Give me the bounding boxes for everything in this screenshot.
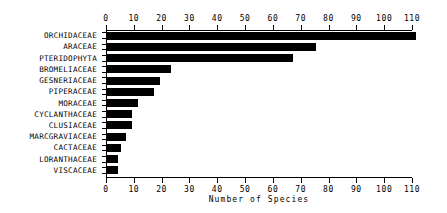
y-tick-mark: [102, 145, 106, 146]
y-tick-mark: [102, 61, 106, 62]
y-tick-mark: [102, 105, 106, 106]
category-label: MARCGRAVIACEAE: [29, 132, 97, 141]
y-tick-mark: [102, 72, 106, 73]
x-tick-mark: [162, 178, 163, 183]
y-tick-mark: [102, 49, 106, 50]
y-tick-mark: [102, 32, 106, 33]
category-label: VISCACEAE: [54, 166, 97, 175]
x-tick-mark: [134, 178, 135, 183]
bar: [107, 166, 118, 174]
category-label: GESNERIACEAE: [39, 76, 97, 85]
bar: [107, 99, 138, 107]
x-tick-label: 80: [323, 13, 334, 24]
bar: [107, 144, 121, 152]
category-label: PIPERACEAE: [49, 87, 97, 96]
bar: [107, 54, 293, 62]
y-tick-mark: [102, 83, 106, 84]
x-tick-label: 100: [376, 13, 392, 24]
x-tick-label: 60: [267, 13, 278, 24]
bar: [107, 32, 416, 40]
x-tick-label: 20: [156, 13, 167, 24]
x-tick-label: 90: [351, 184, 362, 195]
x-tick-label: 30: [184, 13, 195, 24]
x-tick-mark: [384, 178, 385, 183]
category-label: CACTACEAE: [54, 143, 97, 152]
y-tick-mark: [102, 66, 106, 67]
bar-series: [107, 31, 412, 177]
x-tick-label: 0: [103, 13, 108, 24]
x-tick-label: 110: [404, 184, 420, 195]
x-tick-label: 20: [156, 184, 167, 195]
category-label: LORANTHACEAE: [39, 155, 97, 164]
x-tick-label: 50: [240, 184, 251, 195]
x-axis-title: Number of Species: [106, 195, 412, 204]
x-tick-mark: [245, 178, 246, 183]
y-tick-mark: [102, 122, 106, 123]
bar: [107, 121, 132, 129]
x-tick-mark: [329, 178, 330, 183]
x-tick-label: 0: [103, 184, 108, 195]
x-tick-label: 10: [128, 13, 139, 24]
x-tick-label: 110: [404, 13, 420, 24]
x-tick-label: 100: [376, 184, 392, 195]
y-tick-mark: [102, 94, 106, 95]
category-label: ORCHIDACEAE: [44, 31, 97, 40]
bar: [107, 133, 126, 141]
x-tick-mark: [189, 178, 190, 183]
y-tick-mark: [102, 128, 106, 129]
category-label: CYCLANTHACEAE: [34, 110, 97, 119]
bar: [107, 43, 316, 51]
x-tick-label: 30: [184, 184, 195, 195]
x-tick-label: 80: [323, 184, 334, 195]
y-tick-mark: [102, 150, 106, 151]
category-label: BROMELIACEAE: [39, 65, 97, 74]
category-axis-labels: ORCHIDACEAEARACEAEPTERIDOPHYTABROMELIACE…: [0, 30, 103, 178]
x-tick-mark: [106, 178, 107, 183]
y-tick-mark: [102, 44, 106, 45]
bottom-axis-tick-marks: [0, 178, 447, 183]
x-tick-mark: [301, 178, 302, 183]
top-axis-tick-labels: 0102030405060708090100110: [0, 13, 447, 24]
x-tick-label: 60: [267, 184, 278, 195]
y-tick-mark: [102, 134, 106, 135]
y-tick-mark: [102, 173, 106, 174]
category-label: CLUSIACEAE: [49, 121, 97, 130]
x-tick-label: 70: [295, 13, 306, 24]
category-label: PTERIDOPHYTA: [39, 54, 97, 63]
y-tick-mark: [102, 167, 106, 168]
bar: [107, 155, 118, 163]
x-tick-mark: [273, 178, 274, 183]
y-tick-mark: [102, 111, 106, 112]
y-tick-mark: [102, 156, 106, 157]
bar: [107, 65, 171, 73]
y-tick-mark: [102, 100, 106, 101]
y-tick-mark: [102, 162, 106, 163]
y-tick-mark: [102, 117, 106, 118]
category-label: ARACEAE: [63, 42, 97, 51]
x-tick-mark: [217, 178, 218, 183]
y-tick-mark: [102, 55, 106, 56]
bar-chart-figure: 0102030405060708090100110 ORCHIDACEAEARA…: [0, 0, 447, 213]
y-tick-mark: [102, 38, 106, 39]
x-tick-mark: [356, 178, 357, 183]
category-label: MORACEAE: [58, 99, 97, 108]
y-tick-mark: [102, 77, 106, 78]
bar: [107, 77, 160, 85]
x-tick-label: 10: [128, 184, 139, 195]
x-tick-label: 90: [351, 13, 362, 24]
x-tick-label: 40: [212, 184, 223, 195]
x-tick-label: 40: [212, 13, 223, 24]
x-tick-mark: [412, 178, 413, 183]
bar: [107, 88, 154, 96]
y-tick-mark: [102, 139, 106, 140]
x-tick-label: 70: [295, 184, 306, 195]
bar: [107, 110, 132, 118]
bottom-axis-tick-labels: 0102030405060708090100110: [0, 184, 447, 195]
x-tick-label: 50: [240, 13, 251, 24]
y-tick-mark: [102, 89, 106, 90]
x-tick-mark: [412, 25, 413, 30]
